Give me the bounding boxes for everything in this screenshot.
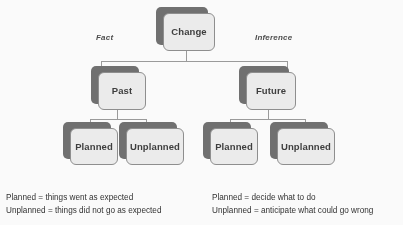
branch-tag-fact: Fact bbox=[96, 33, 113, 42]
legend-right: Planned = decide what to do Unplanned = … bbox=[212, 192, 373, 218]
node-past[interactable]: Past bbox=[98, 72, 146, 110]
node-face-card: Planned bbox=[210, 128, 258, 165]
node-past-planned[interactable]: Planned bbox=[70, 128, 118, 165]
connector-future-bus bbox=[230, 119, 305, 120]
node-past-unplanned[interactable]: Unplanned bbox=[126, 128, 184, 165]
node-label-future-unplanned: Unplanned bbox=[281, 142, 331, 152]
node-label-past-planned: Planned bbox=[75, 142, 113, 152]
legend-right-line-2: Unplanned = anticipate what could go wro… bbox=[212, 205, 373, 218]
legend-right-line-1: Planned = decide what to do bbox=[212, 192, 373, 205]
node-change[interactable]: Change bbox=[163, 13, 215, 51]
node-face-card: Past bbox=[98, 72, 146, 110]
node-label-future: Future bbox=[256, 86, 286, 96]
node-face-card: Future bbox=[246, 72, 296, 110]
legend-left: Planned = things went as expected Unplan… bbox=[6, 192, 161, 218]
node-future[interactable]: Future bbox=[246, 72, 296, 110]
connector-past-bus bbox=[90, 119, 146, 120]
node-future-unplanned[interactable]: Unplanned bbox=[277, 128, 335, 165]
node-future-planned[interactable]: Planned bbox=[210, 128, 258, 165]
diagram-canvas: Fact Inference Change Past Future Planne… bbox=[0, 0, 403, 225]
branch-tag-inference: Inference bbox=[255, 33, 292, 42]
legend-left-line-2: Unplanned = things did not go as expecte… bbox=[6, 205, 161, 218]
node-label-past-unplanned: Unplanned bbox=[130, 142, 180, 152]
node-face-card: Change bbox=[163, 13, 215, 51]
connector-level1-bus bbox=[101, 61, 287, 62]
node-label-past: Past bbox=[112, 86, 132, 96]
node-face-card: Unplanned bbox=[126, 128, 184, 165]
connector-future-stem bbox=[268, 110, 269, 119]
connector-past-stem bbox=[117, 110, 118, 119]
node-face-card: Planned bbox=[70, 128, 118, 165]
node-label-future-planned: Planned bbox=[215, 142, 253, 152]
connector-root-stem bbox=[186, 51, 187, 61]
node-label-change: Change bbox=[171, 27, 206, 37]
node-face-card: Unplanned bbox=[277, 128, 335, 165]
legend-left-line-1: Planned = things went as expected bbox=[6, 192, 161, 205]
